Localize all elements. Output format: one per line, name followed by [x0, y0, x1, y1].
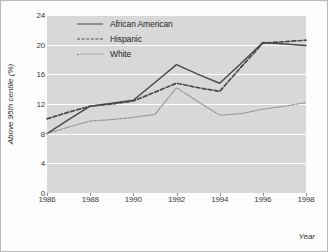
y-axis-tick-label: 8	[41, 129, 45, 138]
legend-item-white: White	[77, 49, 173, 59]
x-axis-tick-mark	[220, 193, 221, 196]
y-axis-title: Above 95th centile (%)	[3, 15, 17, 193]
chart-legend: African American Hispanic White	[77, 19, 173, 59]
x-axis-tick-label: 1988	[82, 195, 99, 204]
x-axis-tick-label: 1986	[39, 195, 56, 204]
x-axis-tick-label: 1990	[125, 195, 142, 204]
y-axis-tick-label: 24	[37, 11, 46, 20]
x-axis-tick-mark	[47, 193, 48, 196]
legend-label: African American	[110, 19, 173, 29]
y-axis-title-text: Above 95th centile (%)	[6, 64, 15, 145]
y-axis-tick-label: 20	[37, 40, 46, 49]
legend-swatch-dashed-line-icon	[77, 35, 103, 43]
legend-swatch-solid-line-icon	[77, 20, 103, 28]
x-axis-tick-label: 1998	[298, 195, 315, 204]
chart-figure: Above 95th centile (%) 04812162024 19861…	[0, 0, 328, 252]
x-axis-tick-label: 1994	[211, 195, 228, 204]
y-axis-tick-label: 16	[37, 70, 46, 79]
legend-label: Hispanic	[110, 34, 142, 44]
legend-item-hispanic: Hispanic	[77, 34, 173, 44]
legend-item-african-american: African American	[77, 19, 173, 29]
x-axis-tick-label: 1992	[168, 195, 185, 204]
x-axis-tick-mark	[90, 193, 91, 196]
x-axis-tick-label: 1996	[254, 195, 271, 204]
legend-swatch-dotted-line-icon	[77, 50, 103, 58]
x-axis-title: Year	[299, 232, 315, 241]
x-axis-tick-mark	[306, 193, 307, 196]
x-axis-tick-labels: 1986198819901992199419961998	[47, 195, 306, 209]
y-axis-tick-label: 12	[37, 100, 46, 109]
y-axis-tick-label: 4	[41, 159, 45, 168]
y-axis-tick-labels: 04812162024	[25, 15, 45, 193]
legend-label: White	[110, 49, 131, 59]
x-axis-tick-mark	[177, 193, 178, 196]
x-axis-tick-mark	[263, 193, 264, 196]
series-line-white	[47, 88, 306, 134]
x-axis-tick-mark	[133, 193, 134, 196]
